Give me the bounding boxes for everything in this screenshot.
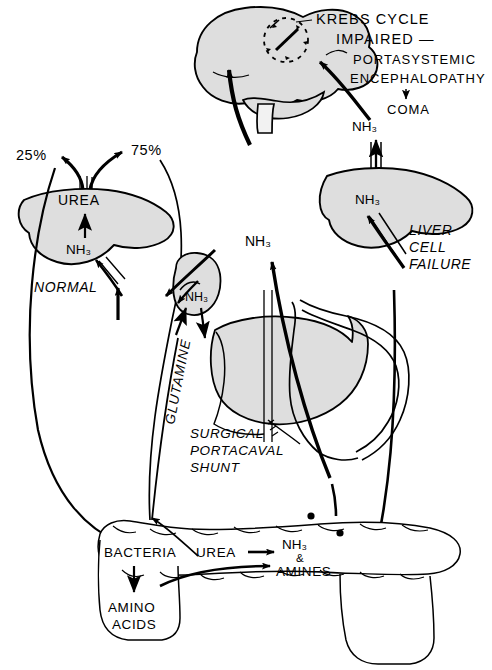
diagram-canvas: KREBS CYCLE IMPAIRED — PORTASYSTEMIC ENC…: [0, 0, 492, 670]
encephalopathy-label: ENCEPHALOPATHY: [350, 71, 486, 86]
urea-gut-label: UREA: [196, 545, 236, 560]
liver-cell-failure-label-2: CELL: [409, 239, 446, 255]
normal-label: NORMAL: [34, 279, 98, 295]
liver-cell-failure-label-3: FAILURE: [409, 256, 471, 272]
amino-acids-label-2: ACIDS: [112, 617, 156, 632]
amines-label: AMINES: [276, 564, 331, 579]
urea-liver-label: UREA: [58, 192, 100, 208]
nh3-shunt-label: NH₃: [245, 233, 271, 249]
percent-25-label: 25%: [16, 147, 47, 163]
amino-acids-label-1: AMINO: [108, 600, 155, 615]
surgical-label-2: PORTACAVAL: [190, 443, 284, 458]
intestine-right-descending: [340, 574, 434, 664]
liver-cell-failure-label-1: LIVER: [409, 222, 452, 238]
coma-label: COMA: [387, 102, 430, 117]
ampersand-label: &: [296, 552, 304, 564]
origin-dot-failure-pathway: [336, 529, 343, 536]
nh3-liver-failing-input-label: NH₃: [355, 192, 380, 207]
bacteria-label: BACTERIA: [104, 545, 176, 560]
ammonia-metabolism-diagram: KREBS CYCLE IMPAIRED — PORTASYSTEMIC ENC…: [0, 0, 492, 670]
surgical-label-3: SHUNT: [190, 460, 241, 475]
origin-dot-shunt-pathway: [307, 512, 314, 519]
brain-stem: [257, 104, 274, 133]
nh3-normal-liver-label: NH₃: [66, 242, 91, 257]
surgical-label-1: SURGICAL: [190, 426, 264, 441]
nh3-gut-label: NH₃: [282, 537, 307, 552]
portasystemic-label: PORTASYSTEMIC: [353, 52, 476, 67]
krebs-cycle-label-line2: IMPAIRED —: [336, 31, 435, 47]
krebs-cycle-label-line1: KREBS CYCLE: [316, 11, 430, 27]
nh3-liver-failing-output-label: NH₃: [352, 119, 377, 134]
percent-75-label: 75%: [131, 142, 162, 158]
